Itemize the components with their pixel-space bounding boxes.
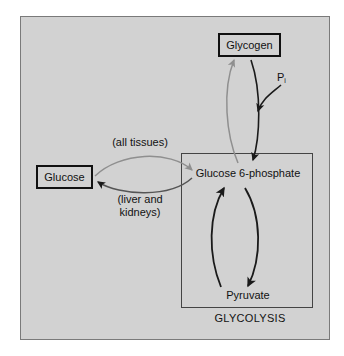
diagram-canvas: Glycogen Glucose Glucose 6-phosphate Pyr… [0,0,344,356]
node-glucose-6-phosphate-label: Glucose 6-phosphate [190,167,306,179]
phosphate-subscript: i [284,77,286,84]
glycolysis-compartment-label: GLYCOLYSIS [195,312,305,324]
annotation-all-tissues: (all tissues) [90,136,190,148]
annotation-liver-and-kidneys: (liver and kidneys) [92,193,188,219]
annotation-liver-line-2: kidneys) [92,206,188,219]
node-glycogen-label: Glycogen [226,39,272,51]
annotation-liver-line-1: (liver and [92,193,188,206]
node-glycogen: Glycogen [218,33,281,57]
node-glucose: Glucose [36,165,93,189]
node-glucose-label: Glucose [44,171,84,183]
node-pyruvate-label: Pyruvate [208,289,288,301]
annotation-inorganic-phosphate: Pi [277,71,286,83]
